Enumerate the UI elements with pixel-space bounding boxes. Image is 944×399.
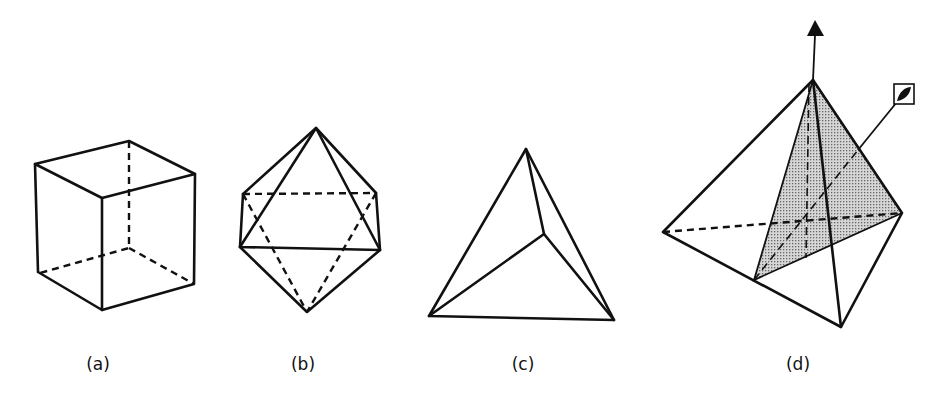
octahedron-front-top-face <box>240 128 380 250</box>
tetrahedron-figure <box>429 149 614 320</box>
cube-top-face <box>35 141 195 198</box>
figure-label-c: (c) <box>512 354 535 374</box>
cube-front-left-face <box>35 164 102 310</box>
octahedron-bottom-edges <box>240 247 380 312</box>
figure-label-a: (a) <box>86 354 110 374</box>
oblique-axis <box>858 97 901 150</box>
tetrahedron-inner-edges <box>429 149 544 316</box>
polyhedra-diagram <box>0 0 944 399</box>
octahedron-figure <box>240 128 380 312</box>
tetrahedron-outline <box>429 149 614 320</box>
threefold-axis-triangle-icon <box>807 20 824 36</box>
octahedron-edge <box>240 194 243 247</box>
octahedron-hidden-edge <box>243 193 376 194</box>
figure-label-b: (b) <box>291 354 315 374</box>
octahedron-hidden-edge <box>307 193 376 312</box>
octahedron-hidden-edge <box>243 194 307 312</box>
cube-figure <box>35 141 195 310</box>
symmetry-tetrahedron-figure <box>663 20 914 327</box>
figure-label-d: (d) <box>786 354 810 374</box>
vertical-axis <box>813 35 815 80</box>
tetrahedron-inner-edge <box>544 234 614 320</box>
cube-hidden-edge <box>129 248 194 284</box>
